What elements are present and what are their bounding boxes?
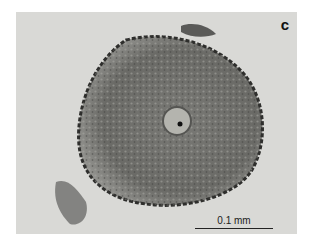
- scale-bar-line: [195, 228, 273, 229]
- scale-bar: 0.1 mm: [195, 215, 273, 229]
- micrograph: c 0.1 mm: [16, 12, 297, 234]
- scale-bar-label: 0.1 mm: [195, 215, 273, 227]
- panel-label: c: [281, 16, 289, 33]
- cell-illustration: [16, 12, 297, 234]
